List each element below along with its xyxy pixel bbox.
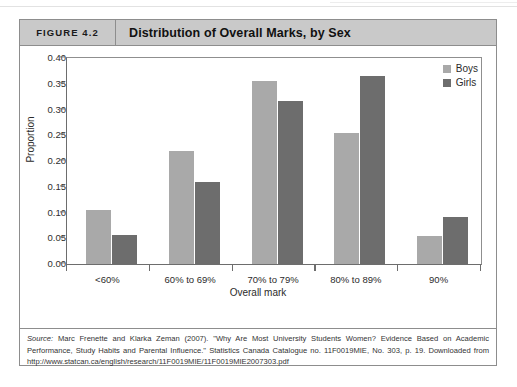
y-tick-mark xyxy=(60,262,65,263)
bar-group xyxy=(233,58,316,264)
x-tick-mark xyxy=(149,265,150,271)
x-category-label: 90% xyxy=(429,274,448,285)
x-tick-mark xyxy=(314,265,315,271)
x-category-label: <60% xyxy=(95,274,120,285)
page-edge-line xyxy=(0,6,517,7)
page-edge-line-secondary xyxy=(330,2,517,3)
y-axis-title: Proportion xyxy=(25,103,36,177)
bar-girls xyxy=(360,76,385,264)
bar-group xyxy=(150,58,233,264)
x-tick-mark xyxy=(232,265,233,271)
legend-label-girls: Girls xyxy=(456,77,477,88)
figure-title: Distribution of Overall Marks, by Sex xyxy=(116,20,496,45)
bar-boys xyxy=(334,133,359,264)
y-tick-mark xyxy=(60,159,65,160)
source-text: Marc Frenette and Klarka Zeman (2007). "… xyxy=(27,334,489,366)
bar-boys xyxy=(169,151,194,264)
bar-girls xyxy=(278,101,303,264)
bar-boys xyxy=(86,210,111,264)
bar-girls xyxy=(443,217,468,264)
legend-label-boys: Boys xyxy=(456,63,478,74)
bar-boys xyxy=(252,81,277,264)
x-category-label: 80% to 89% xyxy=(330,274,381,285)
x-category-label: 70% to 79% xyxy=(247,274,298,285)
x-category-label: 60% to 69% xyxy=(165,274,216,285)
legend-item-boys: Boys xyxy=(443,63,478,74)
y-tick-mark xyxy=(60,134,65,135)
source-note: Source: Marc Frenette and Klarka Zeman (… xyxy=(27,333,489,368)
source-label: Source: xyxy=(27,334,53,343)
y-tick-mark xyxy=(60,237,65,238)
bar-boys xyxy=(417,236,442,264)
y-tick-mark xyxy=(60,82,65,83)
bar-group xyxy=(315,58,398,264)
source-divider xyxy=(20,328,496,329)
x-tick-mark xyxy=(397,265,398,271)
y-tick-mark xyxy=(60,108,65,109)
plot-inner xyxy=(67,58,481,264)
figure-number-label: FIGURE 4.2 xyxy=(20,20,116,45)
bar-girls xyxy=(112,235,137,264)
y-tick-mark xyxy=(60,211,65,212)
x-tick-mark xyxy=(480,265,481,271)
chart-legend: Boys Girls xyxy=(443,63,478,88)
legend-swatch-girls-icon xyxy=(443,79,451,87)
plot-area xyxy=(66,57,482,265)
bar-group xyxy=(398,58,481,264)
legend-item-girls: Girls xyxy=(443,77,478,88)
bar-girls xyxy=(195,182,220,264)
figure-container: FIGURE 4.2 Distribution of Overall Marks… xyxy=(19,19,497,366)
x-axis-title: Overall mark xyxy=(20,287,496,298)
figure-header: FIGURE 4.2 Distribution of Overall Marks… xyxy=(20,20,496,46)
x-tick-mark xyxy=(66,265,67,271)
chart-body: 0.400.350.300.250.200.150.100.050.00 Pro… xyxy=(20,46,496,329)
y-tick-mark xyxy=(60,185,65,186)
legend-swatch-boys-icon xyxy=(443,65,451,73)
y-tick-mark xyxy=(60,56,65,57)
bar-group xyxy=(67,58,150,264)
